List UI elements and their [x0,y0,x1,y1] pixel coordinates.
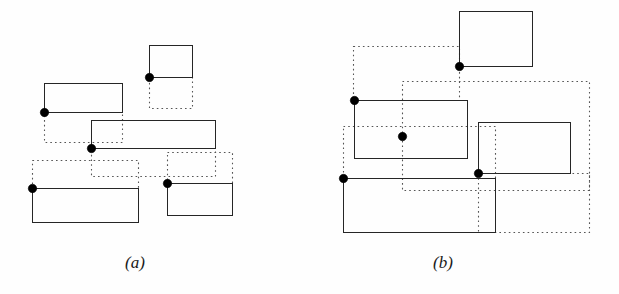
a-point-1 [145,73,153,81]
a-solid-middle-wide [92,121,216,149]
b-point-4 [474,169,482,177]
b-dotted-lower-left [344,127,496,179]
a-point-3 [87,144,95,152]
b-point-2 [350,96,358,104]
a-solid-top-right [150,46,193,78]
b-point-1 [455,62,463,70]
b-solid-top [460,12,533,67]
a-solid-bottom-left [33,189,139,223]
a-dotted-bottom-left [33,161,139,189]
b-solid-middle-left [355,101,468,159]
figure-canvas: (a) (b) [0,0,619,294]
rectangle-diagram-svg [0,0,619,294]
panel-b [339,12,589,233]
a-dotted-upper-left [45,113,123,143]
b-solid-right [479,123,571,174]
a-point-4 [28,184,36,192]
a-dotted-bottom-right [168,153,233,184]
b-dotted-top [354,47,460,101]
a-solid-upper-left [45,84,123,113]
caption-panel-b: (b) [413,253,473,273]
b-solid-bottom [344,179,496,233]
caption-panel-a: (a) [105,253,165,273]
b-point-5 [339,174,347,182]
a-solid-bottom-right [168,184,233,216]
a-dotted-top-right [150,78,193,109]
panel-a [28,46,232,223]
a-point-5 [163,179,171,187]
b-point-3 [398,132,406,140]
a-point-2 [40,108,48,116]
